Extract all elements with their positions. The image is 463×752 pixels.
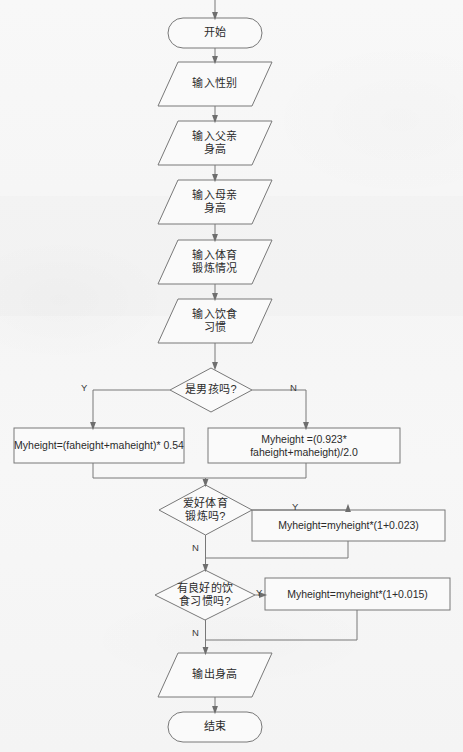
- node-input-exercise: [158, 240, 272, 284]
- edge-isboy-yes-to-boyformula: [93, 390, 170, 426]
- edge-exercise-yes-to-bonus: [252, 508, 348, 510]
- node-process-boy-formula: [14, 428, 184, 463]
- node-process-girl-formula: [208, 428, 400, 463]
- flowchart-shapes: [0, 0, 463, 752]
- node-decision-likes-exercise: [159, 485, 252, 535]
- node-input-gender: [158, 62, 272, 106]
- node-process-diet-bonus: [265, 578, 450, 610]
- edge-label-exercise-no: N: [192, 542, 199, 553]
- node-output-height: [158, 653, 272, 697]
- node-input-father-height: [158, 121, 272, 165]
- edge-exercise-bonus-return: [206, 541, 349, 558]
- node-process-exercise-bonus: [252, 510, 445, 541]
- edge-label-exercise-yes: Y: [292, 501, 298, 512]
- edge-label-isboy-no: N: [290, 382, 297, 393]
- edge-label-diet-yes: Y: [256, 587, 262, 598]
- node-decision-is-boy: [170, 368, 252, 412]
- edge-label-diet-no: N: [192, 627, 199, 638]
- node-end: [168, 712, 262, 742]
- edge-girlformula-to-merge: [206, 463, 307, 478]
- flowchart-canvas: 开始 输入性别 输入父亲 身高 输入母亲 身高 输入体育 锻炼情况 输入饮食 习…: [0, 0, 463, 752]
- edge-boyformula-to-merge: [93, 463, 206, 478]
- node-start: [168, 18, 262, 48]
- edge-isboy-no-to-girlformula: [252, 390, 306, 426]
- node-decision-good-diet: [155, 570, 255, 620]
- edge-label-isboy-yes: Y: [81, 382, 87, 393]
- node-input-mother-height: [158, 180, 272, 224]
- node-input-diet: [158, 299, 272, 343]
- edge-diet-bonus-return: [206, 610, 358, 640]
